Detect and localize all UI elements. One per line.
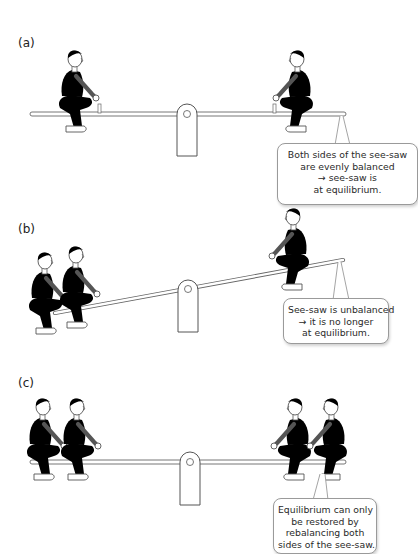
callout-a-line-3: → see-saw is (282, 172, 413, 184)
callout-a-line-4: at equilibrium. (282, 184, 413, 196)
child-left (59, 51, 99, 132)
child-left-back (29, 253, 69, 334)
child-right-back (307, 399, 347, 480)
child-right (273, 51, 313, 132)
callout-c-line-2: be restored by (278, 516, 372, 528)
callout-c-line-1: Equilibrium can only (278, 504, 372, 516)
callout-a-line-2: are evenly balanced (282, 161, 413, 173)
callout-b-line-2: → it is no longer (288, 316, 384, 328)
callout-a-line-1: Both sides of the see-saw (282, 149, 413, 161)
callout-b: See-saw is unbalanced → it is no longer … (283, 298, 389, 344)
callout-b-line-3: at equilibrium. (288, 327, 384, 339)
callout-a: Both sides of the see-saw are evenly bal… (277, 143, 418, 205)
callout-c: Equilibrium can only be restored by reba… (273, 498, 377, 554)
callout-c-line-4: sides of the see-saw. (278, 539, 372, 551)
child-left-back (27, 399, 67, 480)
callout-b-line-1: See-saw is unbalanced (288, 304, 384, 316)
panel-a-seesaw (30, 51, 350, 156)
child-left-front (61, 399, 101, 480)
callout-c-line-3: rebalancing both (278, 527, 372, 539)
panel-c-seesaw (27, 399, 347, 505)
child-right-front (271, 399, 311, 480)
child-left-front (60, 247, 100, 328)
child-right (269, 209, 309, 290)
